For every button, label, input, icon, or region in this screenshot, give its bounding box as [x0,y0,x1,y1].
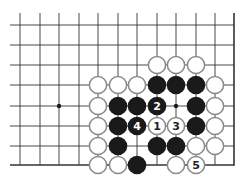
move-number-label: 5 [192,159,200,172]
black-stone: 2 [148,97,167,116]
white-stone [167,156,184,173]
white-stone: 5 [187,156,204,173]
black-stone: 4 [128,117,147,136]
white-stone [206,137,223,154]
black-stone [148,137,167,156]
white-stone [89,97,106,114]
white-stone [109,156,126,173]
black-stone [109,97,128,116]
white-stone [89,76,106,93]
black-stone [187,76,206,95]
white-stone [187,56,204,73]
white-stone [167,56,184,73]
star-point [174,104,178,108]
white-stone [206,117,223,134]
black-stone [128,97,147,116]
move-number-label: 3 [172,120,180,133]
star-point [57,104,61,108]
white-stone [89,137,106,154]
white-stone [89,117,106,134]
white-stone [206,76,223,93]
black-stone [148,76,167,95]
move-number-label: 4 [133,120,141,133]
white-stone: 3 [167,117,184,134]
go-board: 24135 [0,0,241,181]
black-stone [109,117,128,136]
move-number-label: 2 [153,100,161,113]
move-number-label: 1 [153,120,161,133]
black-stone [167,76,186,95]
white-stone [187,137,204,154]
white-stone: 1 [148,117,165,134]
black-stone [187,97,206,116]
white-stone [89,156,106,173]
stones: 24135 [89,56,223,174]
white-stone [128,76,145,93]
black-stone [187,117,206,136]
black-stone [128,156,147,175]
black-stone [109,137,128,156]
white-stone [109,76,126,93]
white-stone [148,56,165,73]
black-stone [167,137,186,156]
white-stone [206,97,223,114]
